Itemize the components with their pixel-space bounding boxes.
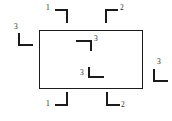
datum-target-label-inner-lower: 3	[80, 69, 84, 77]
bracket-vertical-stroke	[106, 92, 108, 106]
datum-target-bracket-left-outside	[18, 33, 33, 46]
bracket-vertical-stroke	[153, 69, 155, 82]
datum-target-label-bottom-right-outside: 2	[121, 101, 125, 109]
bracket-vertical-stroke	[66, 92, 68, 106]
bracket-horizontal-stroke	[153, 80, 168, 82]
bracket-vertical-stroke	[105, 9, 107, 23]
datum-target-label-inner-upper: 3	[94, 35, 98, 43]
datum-target-label-top-left-outside: 1	[46, 4, 50, 12]
bracket-horizontal-stroke	[88, 76, 104, 78]
datum-target-label-bottom-left-outside: 1	[46, 100, 50, 108]
main-rectangle	[39, 30, 143, 89]
bracket-vertical-stroke	[88, 67, 90, 78]
datum-target-bracket-bottom-left-outside	[55, 92, 68, 106]
datum-target-bracket-top-right-outside	[105, 9, 118, 23]
datum-target-label-left-outside: 3	[14, 23, 18, 31]
bracket-vertical-stroke	[18, 33, 20, 46]
bracket-horizontal-stroke	[105, 9, 118, 11]
datum-target-bracket-inner-lower	[88, 67, 104, 78]
datum-target-bracket-top-left-outside	[55, 9, 68, 23]
datum-target-label-right-outside: 3	[157, 58, 161, 66]
diagram-canvas: 12331233	[0, 0, 172, 121]
datum-target-bracket-right-outside	[153, 69, 168, 82]
bracket-vertical-stroke	[90, 40, 92, 51]
bracket-horizontal-stroke	[106, 104, 120, 106]
datum-target-bracket-inner-upper	[76, 40, 92, 51]
datum-target-label-top-right-outside: 2	[120, 4, 124, 12]
bracket-horizontal-stroke	[18, 44, 33, 46]
bracket-vertical-stroke	[66, 9, 68, 23]
datum-target-bracket-bottom-right-outside	[106, 92, 120, 106]
